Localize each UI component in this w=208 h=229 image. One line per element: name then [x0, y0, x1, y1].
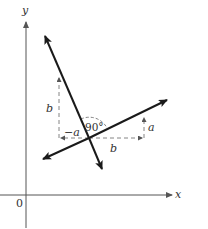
- origin-label: 0: [16, 198, 23, 209]
- perpendicular-lines-diagram: y x 0 b −a 90° b a: [0, 0, 208, 229]
- left-run-label: −a: [64, 127, 80, 138]
- left-rise-label: b: [46, 103, 53, 114]
- steep-line: [45, 36, 102, 169]
- right-rise-label: a: [148, 122, 155, 133]
- angle-label: 90°: [85, 122, 104, 133]
- y-axis-label: y: [22, 5, 28, 16]
- right-run-label: b: [110, 143, 117, 154]
- x-axis-label: x: [175, 189, 181, 200]
